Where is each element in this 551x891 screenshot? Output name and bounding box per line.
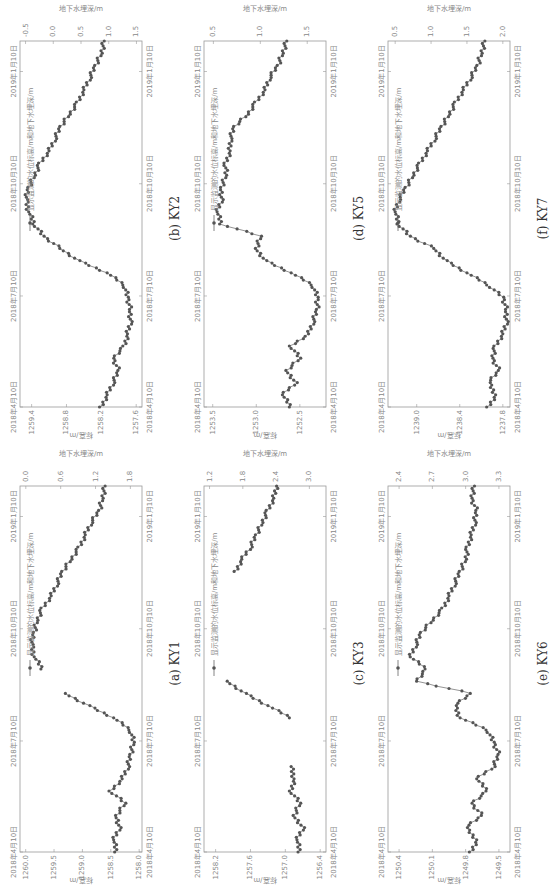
data-point — [112, 716, 115, 719]
data-point — [440, 606, 443, 609]
data-point — [423, 665, 426, 668]
x-tick-label: 2018年10月10日 — [145, 155, 154, 212]
data-point — [83, 531, 86, 534]
data-point — [483, 39, 486, 42]
data-point — [453, 577, 456, 580]
y-axis-title: 标高/m — [437, 876, 460, 885]
data-point — [299, 357, 302, 360]
data-point — [46, 237, 49, 240]
y2-tick-label: 3.3 — [495, 471, 503, 482]
data-point — [234, 684, 237, 687]
y-tick-label: 1259.4 — [28, 409, 36, 434]
x-tick-label: 2018年7月10日 — [145, 715, 154, 767]
y-axis-title: 标高/m — [437, 431, 460, 440]
data-point — [91, 516, 94, 519]
data-point — [438, 252, 441, 255]
data-point — [412, 171, 415, 174]
data-point — [288, 344, 291, 347]
data-point — [113, 850, 116, 853]
data-point — [130, 733, 133, 736]
data-point — [232, 125, 235, 128]
y-axis-title: 标高/m — [69, 876, 92, 885]
data-point — [245, 230, 248, 233]
x-tick-label: 2019年1月10日 — [329, 45, 338, 97]
y-tick-label: 1258.0 — [135, 855, 143, 880]
data-point — [225, 157, 228, 160]
data-point — [47, 147, 50, 150]
x-tick-label: 2018年10月10日 — [513, 600, 522, 657]
x-top-tick-label: 2019年1月10日 — [9, 490, 18, 542]
data-point — [415, 677, 418, 680]
legend-marker-icon — [28, 221, 32, 225]
x-tick-label: 2018年4月10日 — [329, 826, 338, 878]
data-point — [468, 850, 471, 853]
data-point — [228, 682, 231, 685]
y2-tick-label: 1.8 — [126, 471, 134, 482]
data-point — [115, 843, 118, 846]
data-point — [464, 545, 467, 548]
y2-axis-title: 地下水埋深/m — [427, 4, 471, 13]
data-point — [470, 274, 473, 277]
caption-ky2: (b) KY2 — [168, 0, 182, 441]
data-point — [309, 325, 312, 328]
data-point — [294, 806, 297, 809]
data-point — [292, 379, 295, 382]
legend-label: 显示监测的水位标高/m和地下水埋深/m — [394, 87, 403, 211]
data-point — [311, 315, 314, 318]
data-point — [485, 787, 488, 790]
data-point — [472, 799, 475, 802]
data-point — [293, 349, 296, 352]
data-point — [124, 293, 127, 296]
data-point — [103, 711, 106, 714]
data-point — [492, 388, 495, 391]
data-point — [256, 526, 259, 529]
plot-frame — [388, 486, 510, 852]
data-point — [296, 381, 299, 384]
data-point — [293, 794, 296, 797]
data-point — [249, 541, 252, 544]
data-point — [130, 305, 133, 308]
data-point — [480, 811, 483, 814]
data-point — [74, 697, 77, 700]
x-top-tick-label: 2018年10月10日 — [9, 600, 18, 657]
data-point — [260, 235, 263, 238]
data-point — [70, 555, 73, 558]
data-point — [84, 261, 87, 264]
legend-marker-icon — [396, 666, 400, 670]
data-point — [294, 274, 297, 277]
data-point — [421, 670, 424, 673]
x-tick-label: 2018年4月10日 — [513, 826, 522, 878]
data-point — [133, 736, 136, 739]
data-point — [64, 562, 67, 565]
subplot-ky7: 2018年4月10日2018年4月10日2018年7月10日2018年7月10日… — [370, 0, 551, 441]
data-point — [477, 780, 480, 783]
y-tick-label: 1256.4 — [316, 854, 324, 879]
data-point — [36, 227, 39, 230]
data-point — [476, 816, 479, 819]
data-point — [128, 308, 131, 311]
data-point — [228, 142, 231, 145]
data-point — [236, 565, 239, 568]
data-point — [483, 281, 486, 284]
data-point — [464, 555, 467, 558]
data-point — [64, 692, 67, 695]
data-point — [284, 369, 287, 372]
data-point — [227, 147, 230, 150]
data-point — [114, 276, 117, 279]
y2-tick-label: 2.7 — [428, 471, 436, 482]
data-point — [494, 393, 497, 396]
data-point — [477, 775, 480, 778]
data-point — [482, 726, 485, 729]
data-point — [457, 711, 460, 714]
data-point — [113, 846, 116, 849]
data-point — [236, 227, 239, 230]
data-point — [500, 330, 503, 333]
data-point — [417, 161, 420, 164]
data-point — [303, 335, 306, 338]
data-point — [120, 281, 123, 284]
y-tick-label: 1253.0 — [252, 410, 260, 435]
data-point — [106, 271, 109, 274]
x-tick-label: 2018年4月10日 — [145, 826, 154, 878]
x-top-tick-label: 2018年10月10日 — [193, 600, 202, 657]
data-point — [481, 782, 484, 785]
